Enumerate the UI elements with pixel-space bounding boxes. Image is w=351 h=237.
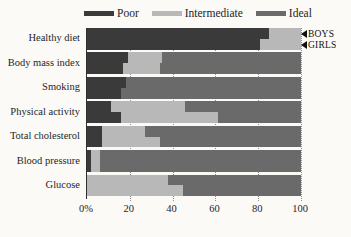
segment-intermediate xyxy=(87,185,183,196)
x-axis-tick-labels: 0%20406080100 xyxy=(86,203,300,217)
segment-ideal xyxy=(100,161,301,172)
bar-group-2 xyxy=(87,77,301,99)
segment-intermediate xyxy=(121,112,217,123)
segment-poor xyxy=(87,88,121,99)
legend-label: Intermediate xyxy=(185,7,243,19)
segment-intermediate xyxy=(87,175,168,186)
segment-intermediate xyxy=(123,63,159,74)
legend-entry-ideal: Ideal xyxy=(256,7,312,19)
segment-poor xyxy=(87,77,126,88)
annotation-label: BOYS xyxy=(308,29,334,39)
segment-intermediate xyxy=(269,28,301,39)
chart-legend: PoorIntermediateIdeal xyxy=(84,6,312,20)
bar-boys xyxy=(87,77,301,88)
legend-entry-intermediate: Intermediate xyxy=(152,7,243,19)
x-tick-label: 40 xyxy=(166,203,177,214)
left-triangle-icon xyxy=(301,41,307,49)
bar-boys xyxy=(87,28,301,39)
segment-ideal xyxy=(121,88,301,99)
annotation-boys: BOYS xyxy=(301,28,336,39)
segment-ideal xyxy=(183,185,301,196)
segment-ideal xyxy=(126,77,301,88)
segment-ideal xyxy=(100,150,301,161)
annotation-girls: GIRLS xyxy=(301,39,336,50)
category-label: Blood pressure xyxy=(0,155,80,166)
legend-entry-poor: Poor xyxy=(84,7,139,19)
segment-intermediate xyxy=(111,101,186,112)
segment-ideal xyxy=(185,101,301,112)
bar-group-6 xyxy=(87,175,301,197)
segment-poor xyxy=(87,39,260,50)
category-label: Glucose xyxy=(0,179,80,190)
category-label: Healthy diet xyxy=(0,32,80,43)
bar-group-0 xyxy=(87,28,301,50)
segment-ideal xyxy=(162,52,301,63)
bar-group-4 xyxy=(87,126,301,148)
left-triangle-icon xyxy=(301,30,307,38)
bar-girls xyxy=(87,137,301,148)
bar-boys xyxy=(87,150,301,161)
category-label: Total cholesterol xyxy=(0,130,80,141)
bar-group-5 xyxy=(87,150,301,172)
x-tick-label: 20 xyxy=(124,203,135,214)
category-label: Body mass index xyxy=(0,57,80,68)
bar-boys xyxy=(87,52,301,63)
bar-girls xyxy=(87,112,301,123)
segment-intermediate xyxy=(102,126,145,137)
legend-swatch-icon xyxy=(152,11,182,16)
segment-intermediate xyxy=(260,39,301,50)
segment-intermediate xyxy=(91,150,100,161)
stacked-bar-chart-figure: PoorIntermediateIdeal Healthy dietBody m… xyxy=(0,0,351,237)
segment-ideal xyxy=(160,63,301,74)
legend-swatch-icon xyxy=(256,11,286,16)
bar-girls xyxy=(87,39,301,50)
legend-label: Poor xyxy=(117,7,139,19)
segment-poor xyxy=(87,101,111,112)
segment-intermediate xyxy=(128,52,162,63)
x-tick-label: 100 xyxy=(292,203,308,214)
category-label: Smoking xyxy=(0,81,80,92)
segment-intermediate xyxy=(102,137,160,148)
bar-girls xyxy=(87,185,301,196)
segment-poor xyxy=(87,137,102,148)
legend-label: Ideal xyxy=(289,7,312,19)
segment-ideal xyxy=(145,126,301,137)
segment-poor xyxy=(87,63,123,74)
bar-girls xyxy=(87,63,301,74)
bar-boys xyxy=(87,101,301,112)
segment-intermediate xyxy=(91,161,100,172)
plot-area xyxy=(86,28,301,199)
segment-poor xyxy=(87,52,128,63)
segment-poor xyxy=(87,28,269,39)
segment-ideal xyxy=(160,137,301,148)
bar-girls xyxy=(87,161,301,172)
gridline-100 xyxy=(301,28,302,201)
segment-poor xyxy=(87,112,121,123)
legend-swatch-icon xyxy=(84,11,114,16)
x-tick-label: 80 xyxy=(252,203,263,214)
category-labels: Healthy dietBody mass indexSmokingPhysic… xyxy=(0,28,83,199)
segment-ideal xyxy=(168,175,301,186)
bar-group-3 xyxy=(87,101,301,123)
x-tick-label: 60 xyxy=(209,203,220,214)
bar-name-annotations: BOYSGIRLS xyxy=(301,28,336,50)
bar-girls xyxy=(87,88,301,99)
annotation-label: GIRLS xyxy=(308,40,336,50)
segment-ideal xyxy=(218,112,301,123)
bar-group-1 xyxy=(87,52,301,74)
bar-boys xyxy=(87,175,301,186)
bar-boys xyxy=(87,126,301,137)
category-label: Physical activity xyxy=(0,106,80,117)
segment-poor xyxy=(87,126,102,137)
x-tick-label: 0% xyxy=(79,203,93,214)
